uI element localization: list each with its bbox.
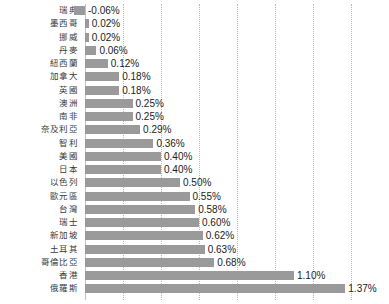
- bar[interactable]: [85, 165, 161, 174]
- bar-container: 0.55%: [0, 190, 389, 203]
- bar[interactable]: [85, 19, 89, 28]
- bar[interactable]: [74, 6, 85, 15]
- value-label: 0.60%: [202, 216, 230, 229]
- bar-row: 南非0.25%: [0, 110, 389, 123]
- value-label: 0.02%: [92, 31, 120, 44]
- bar-container: 0.18%: [0, 70, 389, 83]
- value-label: 0.02%: [92, 17, 120, 30]
- bar[interactable]: [85, 192, 190, 201]
- bar-row: 英國0.18%: [0, 84, 389, 97]
- bar[interactable]: [85, 284, 345, 293]
- value-label: 0.25%: [136, 97, 164, 110]
- bar-row: 日本0.40%: [0, 163, 389, 176]
- value-label: -0.06%: [88, 4, 120, 17]
- bar-row: 歐元區0.55%: [0, 190, 389, 203]
- bar[interactable]: [85, 152, 161, 161]
- value-label: 0.63%: [208, 243, 236, 256]
- bar[interactable]: [85, 46, 96, 55]
- bar[interactable]: [85, 139, 153, 148]
- bar-container: 0.60%: [0, 216, 389, 229]
- bar-container: 0.02%: [0, 31, 389, 44]
- bar[interactable]: [85, 86, 119, 95]
- bar[interactable]: [85, 33, 89, 42]
- bar-container: 0.50%: [0, 176, 389, 189]
- bar-container: 0.02%: [0, 17, 389, 30]
- bar-container: 0.12%: [0, 57, 389, 70]
- bar-row: 奈及利亞0.29%: [0, 123, 389, 136]
- value-label: 0.06%: [99, 44, 127, 57]
- bar-container: 0.25%: [0, 97, 389, 110]
- bar-row: 香港1.10%: [0, 269, 389, 282]
- bar-row: 土耳其0.63%: [0, 243, 389, 256]
- bar-row: 智利0.36%: [0, 137, 389, 150]
- plot-area: 瑞典-0.06%墨西哥0.02%挪威0.02%丹麥0.06%紐西蘭0.12%加拿…: [0, 0, 389, 304]
- bar-row: 哥倫比亞0.68%: [0, 256, 389, 269]
- bar-container: 0.29%: [0, 123, 389, 136]
- bar-container: 0.36%: [0, 137, 389, 150]
- value-label: 0.12%: [111, 57, 139, 70]
- bar-container: 0.40%: [0, 150, 389, 163]
- bar-container: 0.58%: [0, 203, 389, 216]
- bar[interactable]: [85, 231, 203, 240]
- bar-container: 1.10%: [0, 269, 389, 282]
- bar[interactable]: [85, 99, 133, 108]
- bar-container: 0.18%: [0, 84, 389, 97]
- bar[interactable]: [85, 205, 195, 214]
- bar-row: 墨西哥0.02%: [0, 17, 389, 30]
- bar-row: 新加坡0.62%: [0, 229, 389, 242]
- bar-container: 0.40%: [0, 163, 389, 176]
- bar-row: 丹麥0.06%: [0, 44, 389, 57]
- bar[interactable]: [85, 125, 140, 134]
- value-label: 0.58%: [198, 203, 226, 216]
- bar-row: 挪威0.02%: [0, 31, 389, 44]
- bar-row: 加拿大0.18%: [0, 70, 389, 83]
- bar-container: -0.06%: [0, 4, 389, 17]
- bar-row: 台灣0.58%: [0, 203, 389, 216]
- bar[interactable]: [85, 245, 205, 254]
- value-label: 0.18%: [122, 70, 150, 83]
- bar-container: 0.06%: [0, 44, 389, 57]
- bar[interactable]: [85, 112, 133, 121]
- bar-row: 俄羅斯1.37%: [0, 282, 389, 295]
- bar-container: 0.63%: [0, 243, 389, 256]
- bar-container: 0.62%: [0, 229, 389, 242]
- bar-container: 1.37%: [0, 282, 389, 295]
- bar[interactable]: [85, 59, 108, 68]
- value-label: 0.40%: [164, 163, 192, 176]
- bar-container: 0.25%: [0, 110, 389, 123]
- bar-row: 瑞典-0.06%: [0, 4, 389, 17]
- value-label: 0.50%: [183, 176, 211, 189]
- value-label: 0.68%: [217, 256, 245, 269]
- value-label: 1.10%: [297, 269, 325, 282]
- value-label: 0.55%: [193, 190, 221, 203]
- bar-row: 以色列0.50%: [0, 176, 389, 189]
- value-label: 0.25%: [136, 110, 164, 123]
- value-label: 0.40%: [164, 150, 192, 163]
- bar-row: 瑞士0.60%: [0, 216, 389, 229]
- value-label: 0.36%: [156, 137, 184, 150]
- bar[interactable]: [85, 271, 294, 280]
- bar[interactable]: [85, 72, 119, 81]
- bar[interactable]: [85, 258, 214, 267]
- bar-chart: 瑞典-0.06%墨西哥0.02%挪威0.02%丹麥0.06%紐西蘭0.12%加拿…: [0, 0, 389, 304]
- bar-row: 澳洲0.25%: [0, 97, 389, 110]
- bar[interactable]: [85, 178, 180, 187]
- bar-container: 0.68%: [0, 256, 389, 269]
- bar-rows: 瑞典-0.06%墨西哥0.02%挪威0.02%丹麥0.06%紐西蘭0.12%加拿…: [0, 4, 389, 296]
- bar-row: 美國0.40%: [0, 150, 389, 163]
- value-label: 0.62%: [206, 229, 234, 242]
- bar-row: 紐西蘭0.12%: [0, 57, 389, 70]
- value-label: 0.29%: [143, 123, 171, 136]
- value-label: 0.18%: [122, 84, 150, 97]
- value-label: 1.37%: [348, 282, 376, 295]
- bar[interactable]: [85, 218, 199, 227]
